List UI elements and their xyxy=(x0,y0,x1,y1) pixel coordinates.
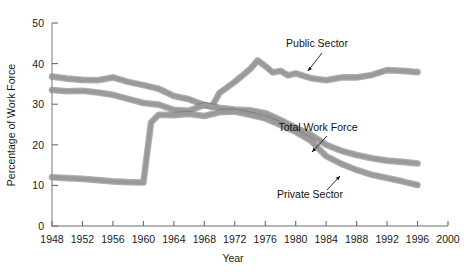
y-axis-tick-labels: 01020304050 xyxy=(32,17,44,232)
x-tick-label: 1972 xyxy=(223,233,247,245)
x-tick-label: 2000 xyxy=(436,233,460,245)
x-tick-label: 1952 xyxy=(71,233,95,245)
axis-lines xyxy=(52,23,448,226)
x-tick-label: 1996 xyxy=(406,233,430,245)
y-tick-label: 50 xyxy=(32,17,44,29)
annotation-label-public-sector: Public Sector xyxy=(286,37,348,49)
series-line-private-sector xyxy=(52,112,418,185)
x-tick-label: 1948 xyxy=(40,233,64,245)
work-force-line-chart: 1948195219561960196419681972197619801984… xyxy=(0,0,467,272)
x-tick-label: 1988 xyxy=(345,233,369,245)
x-axis-tick-labels: 1948195219561960196419681972197619801984… xyxy=(40,233,460,245)
x-tick-label: 1984 xyxy=(314,233,338,245)
y-tick-label: 30 xyxy=(32,98,44,110)
series-edge-total-work-force xyxy=(52,90,418,163)
x-tick-label: 1992 xyxy=(375,233,399,245)
x-tick-label: 1968 xyxy=(193,233,217,245)
series-line-total-work-force xyxy=(52,90,418,163)
annotation-label-total-work-force: Total Work Force xyxy=(278,121,357,133)
x-tick-label: 1964 xyxy=(162,233,186,245)
y-tick-label: 20 xyxy=(32,139,44,151)
chart-axes xyxy=(52,23,448,226)
annotation-label-private-sector: Private Sector xyxy=(277,188,343,200)
series-line-public-sector xyxy=(52,60,418,106)
chart-annotations: Public SectorTotal Work ForcePrivate Sec… xyxy=(277,37,358,200)
x-tick-label: 1980 xyxy=(284,233,308,245)
x-tick-label: 1960 xyxy=(132,233,156,245)
y-tick-label: 10 xyxy=(32,179,44,191)
x-tick-label: 1976 xyxy=(254,233,278,245)
y-axis-title: Percentage of Work Force xyxy=(5,64,17,187)
x-axis-title: Year xyxy=(222,252,244,264)
y-tick-label: 40 xyxy=(32,58,44,70)
x-tick-label: 1956 xyxy=(101,233,125,245)
x-axis-ticks xyxy=(52,221,448,226)
y-tick-label: 0 xyxy=(38,220,44,232)
chart-figure: 1948195219561960196419681972197619801984… xyxy=(0,0,467,272)
y-axis-ticks xyxy=(52,23,58,226)
chart-series xyxy=(52,60,418,185)
